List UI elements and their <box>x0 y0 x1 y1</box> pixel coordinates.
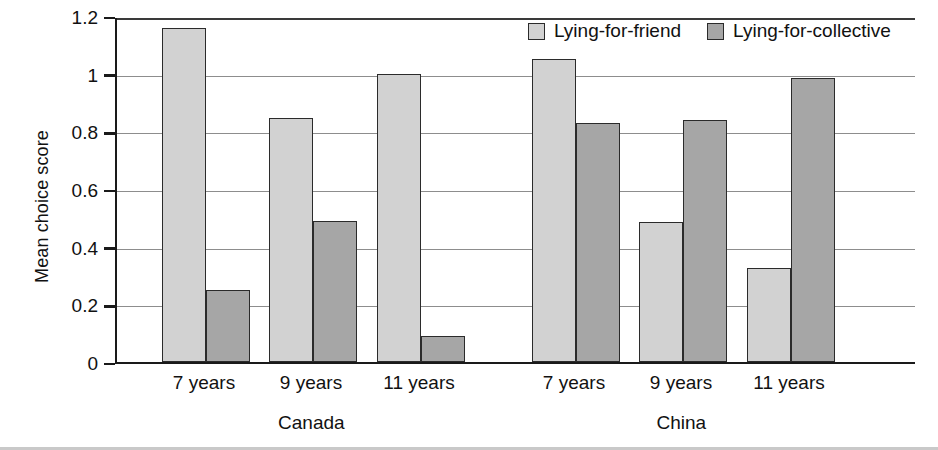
y-tick-mark <box>104 247 115 249</box>
y-tick-mark <box>104 132 115 134</box>
y-tick-mark <box>104 305 115 307</box>
y-tick-mark <box>104 74 115 76</box>
bar-collective <box>421 336 465 362</box>
bar-friend <box>532 59 576 362</box>
plot-area <box>115 18 915 364</box>
y-tick-label: 0.4 <box>72 238 98 260</box>
y-tick-mark <box>104 17 115 19</box>
y-tick-mark <box>104 363 115 365</box>
bars-layer <box>117 18 915 362</box>
y-tick-label: 1.2 <box>72 7 98 29</box>
legend-item-collective: Lying-for-collective <box>707 20 891 42</box>
bar-collective <box>683 120 727 362</box>
bar-friend <box>377 74 421 362</box>
legend-label: Lying-for-friend <box>554 20 681 42</box>
bar-friend <box>162 28 206 362</box>
x-axis-label: 11 years <box>753 372 824 394</box>
y-tick-label: 0.8 <box>72 122 98 144</box>
legend: Lying-for-friend Lying-for-collective <box>528 20 891 42</box>
bar-collective <box>791 78 835 362</box>
bar-chart: Mean choice score 00.20.40.60.811.2 7 ye… <box>0 0 938 450</box>
bar-collective <box>206 290 250 362</box>
legend-label: Lying-for-collective <box>733 20 891 42</box>
group-labels: CanadaChina <box>0 412 938 442</box>
y-tick-mark <box>104 190 115 192</box>
legend-swatch-icon <box>528 23 545 40</box>
x-axis-label: 7 years <box>543 372 605 394</box>
x-axis-label: 11 years <box>383 372 454 394</box>
x-axis-label: 9 years <box>280 372 342 394</box>
group-label-canada: Canada <box>278 412 345 434</box>
bar-collective <box>576 123 620 362</box>
legend-swatch-icon <box>707 23 724 40</box>
y-tick-label: 1 <box>87 65 98 87</box>
bar-collective <box>313 221 357 362</box>
x-axis-label: 9 years <box>650 372 712 394</box>
y-tick-label: 0.2 <box>72 295 98 317</box>
bar-friend <box>639 222 683 362</box>
legend-item-friend: Lying-for-friend <box>528 20 681 42</box>
bar-friend <box>269 118 313 362</box>
y-tick-label: 0.6 <box>72 180 98 202</box>
y-axis-ticks: 00.20.40.60.811.2 <box>0 0 115 364</box>
bar-friend <box>747 268 791 362</box>
x-axis-labels: 7 years9 years11 years7 years9 years11 y… <box>0 372 938 402</box>
x-axis-label: 7 years <box>173 372 235 394</box>
group-label-china: China <box>657 412 707 434</box>
